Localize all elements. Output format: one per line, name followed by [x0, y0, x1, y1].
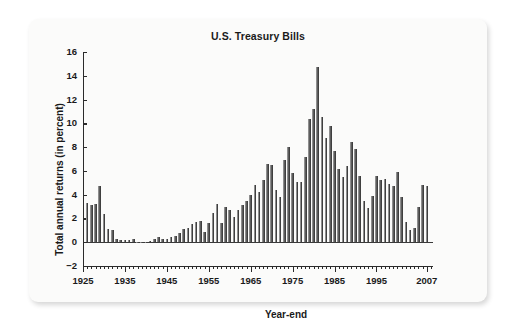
- x-tick-major: [293, 266, 294, 272]
- bar: [220, 223, 223, 242]
- bar: [325, 138, 328, 243]
- x-tick-minor: [263, 266, 264, 269]
- x-tick-minor: [288, 266, 289, 269]
- x-tick-minor: [163, 266, 164, 269]
- y-tick: [83, 242, 87, 243]
- bar: [119, 240, 122, 242]
- x-tick-major: [427, 266, 428, 272]
- bar: [94, 204, 97, 242]
- bar: [124, 240, 127, 242]
- x-tick-minor: [87, 266, 88, 269]
- bar: [329, 126, 332, 243]
- bar: [86, 203, 89, 242]
- x-tick-minor: [221, 266, 222, 269]
- x-tick-minor: [200, 266, 201, 269]
- y-tick-label: 2: [51, 212, 77, 223]
- y-tick: [83, 52, 87, 53]
- bar: [203, 232, 206, 243]
- x-tick-major: [167, 266, 168, 272]
- bar: [308, 119, 311, 243]
- x-tick-label: 1965: [231, 275, 271, 286]
- bar: [371, 196, 374, 242]
- x-tick-minor: [267, 266, 268, 269]
- x-tick-minor: [356, 266, 357, 269]
- x-tick-minor: [297, 266, 298, 269]
- x-tick-major: [209, 266, 210, 272]
- x-tick-label: 1935: [105, 275, 145, 286]
- bar: [304, 157, 307, 243]
- bar: [409, 230, 412, 242]
- bar: [140, 242, 143, 243]
- x-tick-minor: [205, 266, 206, 269]
- bar: [103, 214, 106, 243]
- bar: [283, 160, 286, 242]
- bar: [384, 179, 387, 242]
- y-tick-label: 8: [51, 141, 77, 152]
- x-tick-minor: [322, 266, 323, 269]
- x-tick-minor: [154, 266, 155, 269]
- x-tick-label: 1995: [356, 275, 396, 286]
- x-tick-minor: [385, 266, 386, 269]
- x-tick-minor: [343, 266, 344, 269]
- chart-card: U.S. Treasury Bills Total annual returns…: [29, 19, 487, 302]
- x-tick-label: 1925: [63, 275, 103, 286]
- bar: [417, 207, 420, 243]
- bar: [98, 186, 101, 242]
- x-tick-minor: [272, 266, 273, 269]
- bar: [379, 180, 382, 242]
- bar: [291, 173, 294, 242]
- bar: [224, 207, 227, 243]
- bar: [262, 180, 265, 242]
- bar: [375, 176, 378, 243]
- bar: [182, 229, 185, 242]
- bar: [396, 172, 399, 242]
- x-tick-minor: [393, 266, 394, 269]
- bar: [90, 205, 93, 242]
- x-tick-minor: [175, 266, 176, 269]
- bar: [174, 236, 177, 242]
- bar: [237, 210, 240, 242]
- bar: [166, 239, 169, 243]
- x-tick-minor: [192, 266, 193, 269]
- x-tick-minor: [142, 266, 143, 269]
- bar: [350, 142, 353, 242]
- bar: [195, 222, 198, 242]
- x-tick-minor: [255, 266, 256, 269]
- chart-title: U.S. Treasury Bills: [29, 30, 487, 42]
- bar: [178, 233, 181, 243]
- x-tick-minor: [309, 266, 310, 269]
- x-tick-major: [376, 266, 377, 272]
- bar: [170, 237, 173, 242]
- x-tick-minor: [247, 266, 248, 269]
- x-tick-minor: [121, 266, 122, 269]
- bar: [153, 239, 156, 243]
- bar: [258, 192, 261, 242]
- bar: [145, 242, 148, 243]
- x-tick-minor: [188, 266, 189, 269]
- y-tick-label: 12: [51, 94, 77, 105]
- bar: [392, 186, 395, 242]
- y-tick: [83, 171, 87, 172]
- y-tick-label: 14: [51, 70, 77, 81]
- x-tick-major: [83, 266, 84, 272]
- bar: [199, 221, 202, 242]
- x-tick-minor: [242, 266, 243, 269]
- y-tick: [83, 195, 87, 196]
- bar: [111, 230, 114, 242]
- x-tick-minor: [423, 266, 424, 269]
- bar: [279, 197, 282, 242]
- bar: [161, 239, 164, 243]
- x-tick-minor: [226, 266, 227, 269]
- x-tick-minor: [372, 266, 373, 269]
- x-tick-minor: [259, 266, 260, 269]
- x-tick-minor: [171, 266, 172, 269]
- bar: [228, 210, 231, 242]
- x-tick-minor: [410, 266, 411, 269]
- x-tick-minor: [158, 266, 159, 269]
- bar: [413, 228, 416, 242]
- bar: [187, 228, 190, 242]
- bar: [254, 185, 257, 242]
- bar: [421, 185, 424, 242]
- x-tick-minor: [100, 266, 101, 269]
- x-tick-minor: [360, 266, 361, 269]
